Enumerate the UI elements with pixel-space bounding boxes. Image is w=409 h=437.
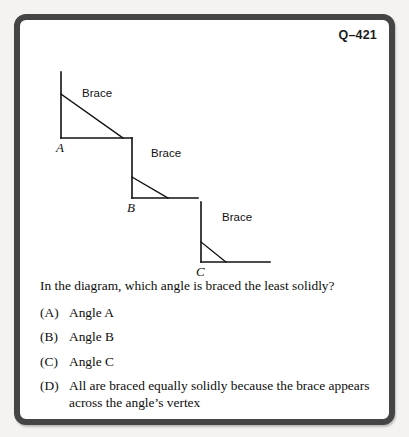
option-text: Angle B [69,328,375,345]
question-card: Q–421 ABraceBBraceCBrace In the diagram,… [14,14,395,425]
brace-diagram: ABraceBBraceCBrace [20,44,389,276]
angle-a-brace-line [61,94,123,138]
option-marker: (B) [40,328,69,345]
option-marker: (C) [40,353,69,370]
brace-diagram-svg: ABraceBBraceCBrace [20,44,389,276]
angle-b-vertex-label: B [127,200,135,215]
option-text: All are braced equally solidly because t… [69,377,375,412]
angle-a-brace-label: Brace [82,87,112,99]
angle-c-brace-line [201,242,226,262]
angle-b-brace-label: Brace [151,147,181,159]
question-body: In the diagram, which angle is braced th… [40,278,375,419]
question-stem: In the diagram, which angle is braced th… [40,278,375,295]
option-row-b[interactable]: (B)Angle B [40,328,375,345]
option-marker: (A) [40,304,69,321]
angle-b-brace-line [132,177,168,198]
option-row-c[interactable]: (C)Angle C [40,353,375,370]
option-text: Angle C [69,353,375,370]
option-row-d[interactable]: (D)All are braced equally solidly becaus… [40,377,375,412]
angle-a-vertex-label: A [55,140,64,155]
question-code: Q–421 [338,28,377,42]
option-list: (A)Angle A(B)Angle B(C)Angle C(D)All are… [40,304,375,412]
option-text: Angle A [69,304,375,321]
angle-c-brace-label: Brace [222,211,252,223]
option-row-a[interactable]: (A)Angle A [40,304,375,321]
option-marker: (D) [40,377,69,394]
angle-c-vertex-label: C [196,264,205,276]
